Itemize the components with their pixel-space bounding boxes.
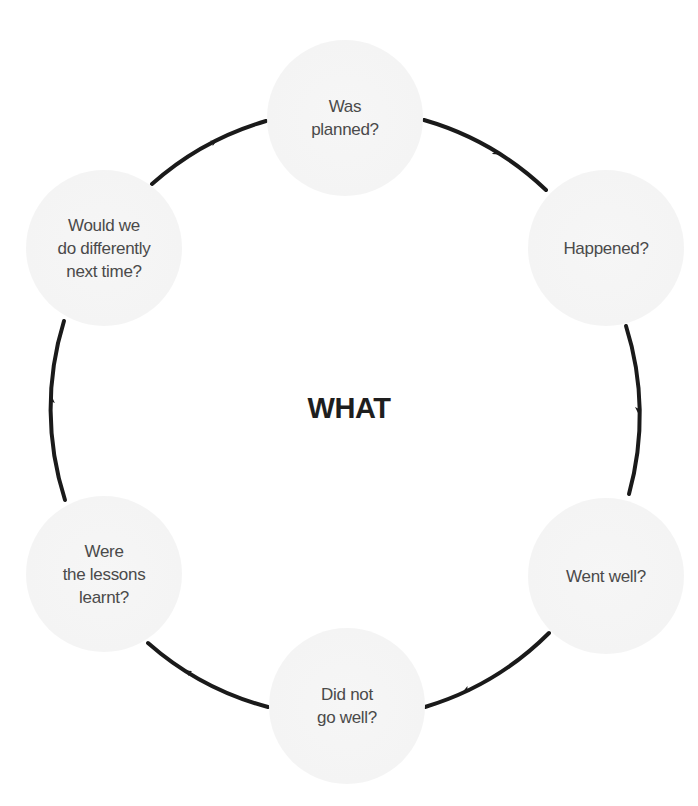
center-label: WHAT <box>249 392 449 425</box>
arrow-happened-to-went-well <box>626 326 640 494</box>
node-do-differently: Would we do differently next time? <box>26 170 182 326</box>
node-label: Were the lessons learnt? <box>63 540 146 609</box>
node-went-well: Went well? <box>528 498 684 654</box>
node-label: Was planned? <box>311 95 379 141</box>
node-label: Did not go well? <box>317 683 377 729</box>
node-did-not-go-well: Did not go well? <box>269 628 425 784</box>
node-label: Would we do differently next time? <box>58 214 151 283</box>
node-label: Went well? <box>566 565 646 588</box>
node-happened: Happened? <box>528 170 684 326</box>
node-was-planned: Was planned? <box>267 40 423 196</box>
arrow-did-not-go-well-to-lessons <box>148 643 268 707</box>
node-lessons-learnt: Were the lessons learnt? <box>26 496 182 652</box>
arrow-differently-to-planned <box>152 121 266 184</box>
arrow-lessons-to-differently <box>51 321 65 500</box>
arrow-went-well-to-did-not-go-well <box>425 633 549 707</box>
arrow-planned-to-happened <box>424 120 546 190</box>
node-label: Happened? <box>563 237 648 260</box>
